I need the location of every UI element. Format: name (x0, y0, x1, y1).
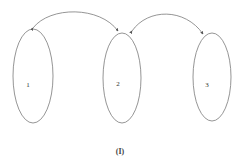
node-1-label: 1 (26, 81, 30, 89)
node-2-ellipse (103, 33, 141, 123)
diagram-canvas: 1 2 3 (I) (0, 0, 241, 165)
node-3-label: 3 (205, 81, 209, 89)
edge-2-3-arrow (132, 14, 203, 34)
figure-caption: (I) (116, 147, 125, 156)
node-1-ellipse (13, 29, 53, 123)
node-2-label: 2 (116, 80, 120, 88)
node-3-ellipse (193, 33, 231, 121)
edge-1-2-arrow (33, 12, 118, 31)
